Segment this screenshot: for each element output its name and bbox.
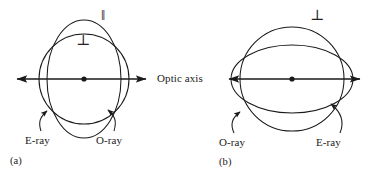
optic-axis-diagram: ‖ ⊥ E-ray O-ray (a) Optic axis ⊥ O-ray E… — [0, 0, 369, 177]
panel-b-tag: (b) — [219, 157, 232, 168]
panel-b-o-ray-label: O-ray — [219, 137, 245, 148]
optic-axis-label: Optic axis — [157, 73, 203, 84]
panel-b-e-ray-label: E-ray — [316, 137, 341, 148]
panel-b-e-ray-leader — [331, 104, 342, 133]
panel-b-center-dot — [289, 76, 294, 81]
panel-a-perpendicular-symbol: ⊥ — [76, 33, 90, 48]
panel-a-e-ray-leader — [40, 111, 47, 131]
diagram-canvas — [0, 0, 369, 177]
panel-a-tag: (a) — [10, 156, 22, 167]
panel-a-center-dot — [81, 76, 86, 81]
panel-a-parallel-symbol: ‖ — [101, 8, 105, 23]
panel-a-e-ray-label: E-ray — [25, 135, 50, 146]
panel-a-o-ray-label: O-ray — [96, 135, 122, 146]
panel-b-graphics — [229, 27, 360, 133]
panel-b-perpendicular-symbol: ⊥ — [310, 8, 324, 23]
panel-b-o-ray-leader — [232, 112, 240, 133]
